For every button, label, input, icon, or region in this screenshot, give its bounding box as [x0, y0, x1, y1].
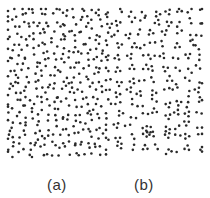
dot: [107, 138, 110, 141]
dot: [27, 81, 30, 84]
dot: [118, 58, 121, 61]
dot: [136, 105, 139, 108]
dot: [24, 96, 27, 99]
dot: [43, 31, 46, 34]
dot: [12, 141, 15, 144]
dot: [51, 140, 54, 143]
dot: [168, 132, 171, 135]
dot: [120, 81, 123, 84]
dot: [161, 30, 164, 33]
dot: [131, 21, 134, 24]
dot: [95, 88, 98, 91]
dot: [105, 148, 108, 151]
dot: [101, 91, 104, 94]
dot: [67, 56, 70, 59]
dot: [87, 78, 90, 81]
dot: [175, 151, 178, 154]
dot: [128, 37, 131, 40]
dot: [130, 53, 133, 56]
panel-b-clustered-dots: [105, 8, 204, 156]
dot: [7, 15, 10, 18]
dot: [52, 133, 55, 136]
panel-a-random-dots: [7, 8, 105, 159]
dot: [39, 145, 42, 148]
dot: [195, 64, 198, 67]
dot: [54, 108, 57, 111]
dot: [121, 43, 124, 46]
dot: [140, 94, 143, 97]
dot: [29, 99, 32, 102]
dot: [10, 82, 13, 85]
dot: [130, 116, 133, 119]
dot: [50, 41, 53, 44]
dot: [68, 153, 71, 156]
dot: [162, 52, 165, 55]
dot: [120, 142, 123, 145]
dot: [105, 89, 108, 92]
dot: [16, 33, 19, 36]
dot: [189, 40, 192, 43]
dot: [179, 134, 182, 137]
dot: [7, 10, 10, 13]
dot: [73, 34, 76, 37]
dot: [7, 38, 10, 41]
panel-a-label: (a): [47, 176, 67, 193]
dot: [82, 98, 85, 101]
dot: [90, 113, 93, 116]
dot: [93, 58, 96, 61]
dot: [178, 8, 181, 11]
dot: [141, 11, 144, 14]
dot: [100, 105, 103, 108]
dot: [102, 132, 105, 135]
dot: [41, 135, 44, 138]
dot: [153, 107, 156, 110]
dot: [67, 114, 70, 117]
dot: [139, 47, 142, 50]
dot: [20, 48, 23, 51]
dot: [37, 138, 40, 141]
dot: [124, 125, 127, 128]
dot: [44, 91, 47, 94]
dot: [74, 99, 77, 102]
dot: [62, 117, 65, 120]
dot: [18, 25, 21, 28]
dot: [117, 30, 120, 33]
dot: [172, 57, 175, 60]
dot: [111, 22, 114, 25]
dot: [126, 88, 129, 91]
dot: [120, 11, 123, 14]
dot: [169, 102, 172, 105]
dot: [149, 131, 152, 134]
dot: [69, 91, 72, 94]
dot: [89, 48, 92, 51]
dot: [91, 119, 94, 122]
dot: [86, 112, 89, 115]
dot: [199, 148, 202, 151]
dot: [135, 46, 138, 49]
dot: [106, 59, 109, 62]
dot: [119, 93, 122, 96]
dot: [34, 72, 37, 75]
dot: [56, 45, 59, 48]
dot: [93, 72, 96, 75]
dot: [133, 138, 136, 141]
dot: [11, 49, 14, 52]
dot: [90, 152, 93, 155]
dot: [135, 117, 138, 120]
dot: [24, 116, 27, 119]
dot: [75, 106, 78, 109]
dot: [118, 114, 121, 117]
dot: [99, 154, 102, 157]
dot: [43, 137, 46, 140]
dot: [19, 99, 22, 102]
dot: [21, 13, 24, 16]
dot: [148, 33, 151, 36]
dot: [90, 18, 93, 21]
dot: [110, 103, 113, 106]
dot: [134, 16, 137, 19]
dot: [116, 81, 119, 84]
dot: [106, 16, 109, 19]
dot: [196, 126, 199, 129]
dot: [14, 81, 17, 84]
dot: [87, 52, 90, 55]
